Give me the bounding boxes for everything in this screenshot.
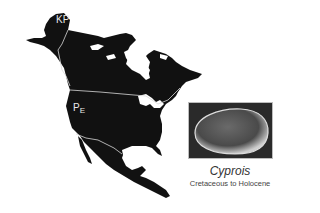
pe-label-sub: E bbox=[80, 106, 85, 115]
cyprois-specimen-photo bbox=[188, 102, 273, 159]
pe-label: PE bbox=[73, 103, 85, 115]
stratigraphic-range: Cretaceous to Holocene bbox=[178, 179, 282, 188]
gulf-of-mexico bbox=[122, 146, 152, 168]
ostracod-shell-image bbox=[189, 103, 273, 159]
north-america-landmass bbox=[26, 13, 202, 198]
kp-label: KP bbox=[56, 15, 69, 25]
pe-label-main: P bbox=[73, 102, 80, 113]
genus-name: Cyprois bbox=[180, 164, 280, 178]
